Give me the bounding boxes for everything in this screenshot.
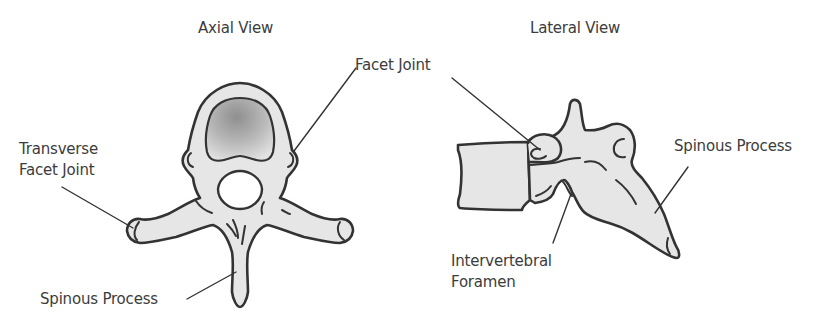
axial-vertebral-body xyxy=(206,98,274,161)
label-transverse-line2: Facet Joint xyxy=(19,160,95,180)
label-intervertebral-line2: Foramen xyxy=(451,272,516,292)
leader-transverse-facet xyxy=(62,187,133,228)
axial-spinal-canal xyxy=(218,171,262,209)
axial-view-title: Axial View xyxy=(198,18,273,38)
label-axial-spinous-process: Spinous Process xyxy=(40,289,158,309)
label-lateral-spinous-process: Spinous Process xyxy=(674,136,792,156)
leader-lateral-spinous xyxy=(655,167,688,213)
leader-axial-facet xyxy=(294,68,356,151)
label-intervertebral-line1: Intervertebral xyxy=(451,251,552,271)
lateral-view-title: Lateral View xyxy=(530,18,620,38)
leader-axial-spinous xyxy=(187,272,236,299)
vertebra-diagram xyxy=(0,0,824,330)
lateral-vertebral-body xyxy=(458,142,530,210)
lateral-vertebra-illustration xyxy=(458,100,679,258)
leader-intervertebral-foramen xyxy=(553,194,571,243)
label-transverse-line1: Transverse xyxy=(19,139,98,159)
leader-lateral-facet xyxy=(452,78,540,150)
lateral-posterior-elements xyxy=(528,100,679,258)
label-facet-joint: Facet Joint xyxy=(355,55,431,75)
